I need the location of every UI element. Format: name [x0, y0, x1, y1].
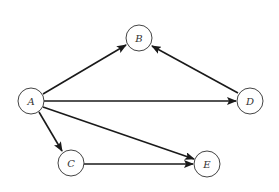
graph-diagram: A B D C E: [0, 0, 279, 192]
node-c: C: [58, 150, 84, 176]
node-b-label: B: [134, 33, 142, 44]
edge-d-to-b: [152, 46, 238, 93]
node-d: D: [237, 88, 263, 114]
node-c-label: C: [67, 158, 75, 169]
node-e-label: E: [202, 159, 211, 170]
node-b: B: [126, 25, 152, 51]
node-d-label: D: [245, 96, 254, 107]
edges: [39, 45, 238, 164]
node-a-label: A: [26, 96, 34, 107]
graph-svg: A B D C E: [0, 0, 279, 192]
edge-a-to-b: [43, 45, 126, 94]
node-a: A: [18, 88, 44, 114]
edge-a-to-c: [39, 112, 62, 151]
node-e: E: [194, 151, 220, 177]
